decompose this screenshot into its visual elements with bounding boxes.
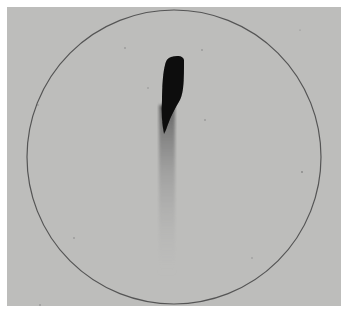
downward-streak	[159, 105, 175, 275]
specimen-figure	[0, 0, 346, 313]
